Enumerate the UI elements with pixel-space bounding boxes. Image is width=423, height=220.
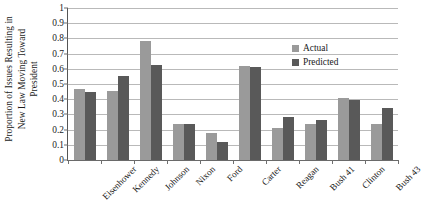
bar-actual[interactable]: [272, 128, 283, 160]
y-axis-tick-label: 0.7: [52, 49, 64, 59]
y-axis-tick-mark: [64, 129, 68, 130]
bar-group: [233, 8, 266, 160]
y-axis-tick-label: 0.3: [52, 109, 64, 119]
bar-pair: [266, 8, 299, 160]
bar-predicted[interactable]: [316, 120, 327, 160]
bar-actual[interactable]: [371, 124, 382, 160]
bar-actual[interactable]: [239, 66, 250, 160]
x-axis-category-label: Johnson: [163, 164, 191, 192]
bar-pair: [200, 8, 233, 160]
legend-swatch-icon: [292, 45, 299, 52]
x-axis-tick-mark: [398, 160, 399, 164]
bar-groups: [68, 8, 398, 160]
y-axis-tick-mark: [64, 53, 68, 54]
bar-pair: [68, 8, 101, 160]
bar-pair: [332, 8, 365, 160]
bar-actual[interactable]: [305, 124, 316, 160]
y-axis-tick-labels: 00.10.20.30.40.50.60.70.80.91: [44, 8, 64, 160]
x-axis-category-label: Ford: [226, 164, 245, 183]
bar-actual[interactable]: [173, 124, 184, 160]
y-axis-tick-label: 0.6: [52, 64, 64, 74]
bar-group: [266, 8, 299, 160]
x-axis-category-label: Carter: [260, 164, 283, 187]
bar-group: [101, 8, 134, 160]
bar-pair: [233, 8, 266, 160]
y-axis-tick-mark: [64, 99, 68, 100]
legend-item[interactable]: Actual: [292, 42, 338, 54]
y-axis-tick-label: 0.9: [52, 18, 64, 28]
bar-group: [68, 8, 101, 160]
bar-predicted[interactable]: [85, 92, 96, 160]
bar-group: [299, 8, 332, 160]
y-axis-tick-mark: [64, 68, 68, 69]
bar-pair: [365, 8, 398, 160]
x-axis-category-label: Clinton: [361, 164, 388, 191]
bar-predicted[interactable]: [382, 108, 393, 160]
chart-legend: ActualPredicted: [292, 42, 338, 68]
bar-group: [134, 8, 167, 160]
legend-item[interactable]: Predicted: [292, 56, 338, 68]
y-axis-tick-label: 0.5: [52, 79, 64, 89]
bar-group: [365, 8, 398, 160]
y-axis-tick-label: 0.2: [52, 125, 64, 135]
bar-predicted[interactable]: [217, 142, 228, 160]
bar-actual[interactable]: [206, 133, 217, 160]
y-axis-title-container: Proportion of Issues Resulting in New La…: [0, 0, 45, 159]
bar-actual[interactable]: [338, 98, 349, 160]
y-axis-tick-mark: [64, 38, 68, 39]
bar-predicted[interactable]: [349, 100, 360, 160]
y-axis-tick-label: 0.1: [52, 140, 64, 150]
y-axis-tick-mark: [64, 23, 68, 24]
bar-actual[interactable]: [74, 89, 85, 160]
bar-pair: [101, 8, 134, 160]
x-axis-category-labels: EisenhowerKennedyJohnsonNixonFordCarterR…: [68, 164, 398, 220]
bar-group: [167, 8, 200, 160]
bar-pair: [299, 8, 332, 160]
bar-group: [332, 8, 365, 160]
y-axis-tick-mark: [64, 114, 68, 115]
y-axis-title: Proportion of Issues Resulting in New La…: [3, 16, 40, 142]
x-axis-category-label: Reagan: [295, 164, 322, 191]
legend-label: Actual: [303, 43, 328, 53]
legend-swatch-icon: [292, 59, 299, 66]
y-axis-tick-mark: [64, 84, 68, 85]
bar-actual[interactable]: [107, 91, 118, 160]
bar-predicted[interactable]: [184, 124, 195, 160]
y-axis-tick-label: 0.8: [52, 33, 64, 43]
y-axis-tick-mark: [64, 8, 68, 9]
bar-group: [200, 8, 233, 160]
plot-area: [68, 8, 398, 160]
bar-pair: [134, 8, 167, 160]
x-axis-category-label: Bush 41: [328, 164, 357, 193]
bar-predicted[interactable]: [118, 76, 129, 160]
bar-pair: [167, 8, 200, 160]
y-axis-tick-mark: [64, 160, 68, 161]
x-axis-category-label: Eisenhower: [101, 164, 139, 202]
bar-predicted[interactable]: [283, 117, 294, 160]
x-axis-category-label: Nixon: [194, 164, 217, 187]
bar-actual[interactable]: [140, 41, 151, 160]
bar-predicted[interactable]: [250, 67, 261, 160]
x-axis-category-label: Bush 43: [394, 164, 423, 193]
legend-label: Predicted: [303, 57, 338, 67]
y-axis-tick-mark: [64, 144, 68, 145]
bar-predicted[interactable]: [151, 65, 162, 160]
y-axis-tick-label: 0.4: [52, 94, 64, 104]
